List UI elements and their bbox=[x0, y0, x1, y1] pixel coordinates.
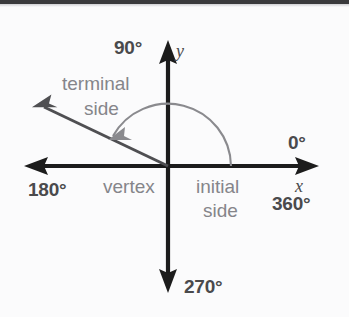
terminal-side-label-line2: side bbox=[84, 99, 119, 118]
figure-canvas: 90° y terminal side 0° x 360° 180° verte… bbox=[0, 0, 349, 317]
angle-sweep-arrow-icon bbox=[108, 127, 132, 140]
label-0-degrees: 0° bbox=[288, 133, 306, 152]
y-axis-variable-label: y bbox=[176, 42, 184, 60]
label-360-degrees: 360° bbox=[272, 194, 311, 213]
initial-side-label-line1: initial bbox=[196, 177, 239, 196]
initial-side-label-line2: side bbox=[203, 201, 238, 220]
label-90-degrees: 90° bbox=[114, 38, 142, 57]
angle-sweep-arc bbox=[113, 104, 231, 166]
angle-diagram-svg bbox=[0, 0, 349, 317]
terminal-side-label-line1: terminal bbox=[62, 74, 130, 93]
vertex-label: vertex bbox=[103, 177, 155, 196]
terminal-side-arrow-icon bbox=[31, 95, 58, 118]
label-270-degrees: 270° bbox=[184, 277, 223, 296]
label-180-degrees: 180° bbox=[28, 180, 67, 199]
